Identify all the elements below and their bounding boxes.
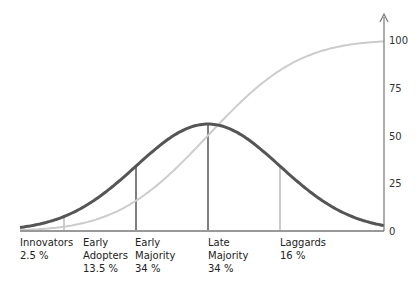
segment-name-label: Late (208, 237, 230, 248)
y-tick-label: 75 (389, 83, 402, 94)
cumulative-s-curve (20, 41, 384, 230)
y-tick-label: 0 (389, 226, 395, 237)
segment-share-label: 34 % (208, 263, 233, 274)
y-tick-label: 100 (389, 35, 408, 46)
segment-share-label: 16 % (280, 250, 305, 261)
y-tick-label: 25 (389, 178, 402, 189)
segment-name-label: Adopters (83, 250, 128, 261)
segment-share-label: 13.5 % (83, 263, 118, 274)
segment-name-label: Laggards (280, 237, 326, 248)
segment-name-label: Early (135, 237, 160, 248)
adoption-bell-curve (20, 124, 384, 228)
segment-name-label: Majority (135, 250, 175, 261)
chart-svg: 0255075100 Innovators2.5 %EarlyAdopters1… (0, 0, 420, 287)
segment-name-label: Early (83, 237, 108, 248)
diffusion-of-innovation-chart: 0255075100 Innovators2.5 %EarlyAdopters1… (0, 0, 420, 287)
segment-name-label: Majority (208, 250, 248, 261)
segment-name-label: Innovators (20, 237, 73, 248)
y-tick-label: 50 (389, 131, 402, 142)
segment-share-label: 34 % (135, 263, 160, 274)
segment-share-label: 2.5 % (20, 250, 49, 261)
